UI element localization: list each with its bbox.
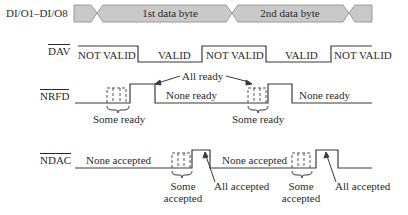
dav-state-3: NOT VALID [206, 49, 264, 61]
dav-label-text: DAV [48, 44, 70, 57]
none-accepted-label-2: None accepted [222, 154, 287, 166]
second-data-byte-label: 2nd data byte [240, 7, 340, 19]
none-accepted-label-1: None accepted [86, 154, 151, 166]
dav-state-2: VALID [158, 49, 191, 61]
ndac-signal-label: NDAC [40, 154, 71, 166]
nrfd-label-text: NRFD [40, 89, 69, 102]
dav-state-5: NOT VALID [334, 49, 392, 61]
some-ready-label-2: Some ready [232, 113, 284, 125]
dav-state-1: NOT VALID [78, 49, 136, 61]
none-ready-label-1: None ready [166, 89, 217, 101]
all-ready-label: All ready [182, 70, 223, 82]
some-ready-label-1: Some ready [93, 113, 145, 125]
nrfd-braces [107, 106, 268, 113]
ndac-label-text: NDAC [40, 153, 71, 166]
all-accepted-label-2: All accepted [335, 180, 390, 192]
some-accepted-label-1b: accepted [160, 192, 206, 204]
dav-state-4: VALID [285, 49, 318, 61]
dav-signal-label: DAV [48, 45, 70, 57]
some-accepted-label-1a: Some [160, 180, 206, 192]
ndac-braces [172, 171, 312, 178]
all-accepted-label-1: All accepted [214, 180, 269, 192]
first-data-byte-label: 1st data byte [120, 7, 220, 19]
data-bus-label: DI/O1–DI/O8 [6, 7, 68, 19]
some-accepted-label-2b: accepted [278, 192, 324, 204]
none-ready-label-2: None ready [299, 89, 350, 101]
nrfd-signal-label: NRFD [40, 90, 69, 102]
some-accepted-label-2a: Some [278, 180, 324, 192]
